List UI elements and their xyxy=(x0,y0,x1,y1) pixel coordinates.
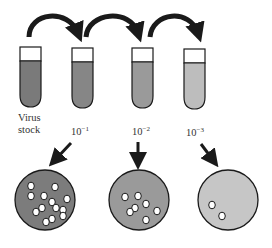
transfer-arrow-icon xyxy=(29,16,78,37)
plating-arrows xyxy=(55,142,213,161)
plate-dilution-2 xyxy=(109,170,169,230)
arrow-down-left-icon xyxy=(55,143,71,160)
dilution-base: 10 xyxy=(71,126,82,137)
tube-dilution-2 xyxy=(132,48,153,108)
dilution-exponent: −2 xyxy=(143,125,150,133)
label-dilution-1: 10−1 xyxy=(71,123,89,138)
transfer-arrow-icon xyxy=(150,16,198,37)
label-virus-line2: stock xyxy=(18,124,41,136)
tube-dilution-1 xyxy=(72,48,93,108)
arrow-down-right-icon xyxy=(201,144,213,160)
dilution-exponent: −3 xyxy=(197,126,204,134)
label-virus-line1: Virus xyxy=(18,112,41,124)
transfer-arrows xyxy=(29,16,198,37)
plate-dilution-1 xyxy=(15,170,75,230)
plate-dilution-3 xyxy=(198,170,258,230)
label-dilution-3: 10−3 xyxy=(186,124,204,139)
label-dilution-2: 10−2 xyxy=(132,123,150,138)
transfer-arrow-icon xyxy=(86,16,138,37)
tube-virus-stock xyxy=(20,47,41,107)
dilution-exponent: −1 xyxy=(82,125,89,133)
dilution-base: 10 xyxy=(186,127,197,138)
tube-dilution-3 xyxy=(184,49,205,109)
label-virus-stock: Virus stock xyxy=(18,112,41,136)
dilution-base: 10 xyxy=(132,126,143,137)
